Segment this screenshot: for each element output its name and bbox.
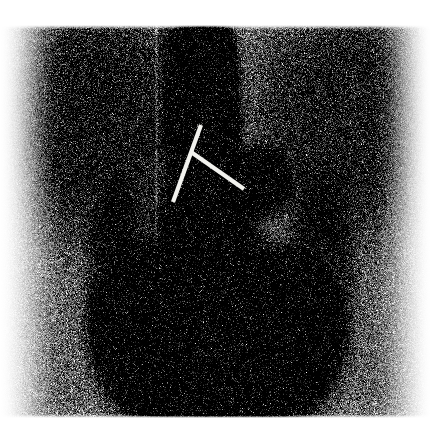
scintigraphy-scan-image bbox=[0, 0, 438, 434]
scan-image-viewer bbox=[0, 0, 438, 434]
